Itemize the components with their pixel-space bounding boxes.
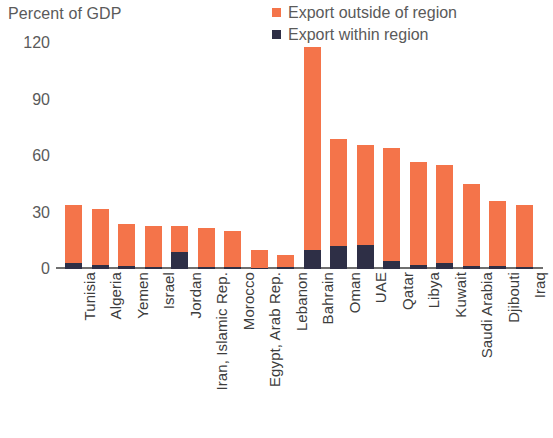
legend-swatch-icon-within	[272, 30, 281, 39]
bar-segment-export-within-region	[251, 268, 268, 270]
x-axis-tick-label: Iraq	[531, 272, 548, 438]
x-axis-tick-label: Lebanon	[293, 272, 310, 438]
x-axis-tick-label: UAE	[372, 272, 389, 438]
x-axis-tick-label: Algeria	[107, 272, 124, 438]
bar-oman[interactable]	[330, 139, 347, 269]
bar-segment-export-within-region	[489, 266, 506, 269]
y-axis-title: Percent of GDP	[8, 5, 121, 23]
x-axis-tick-label: Kuwait	[452, 272, 469, 438]
x-axis-tick-label: Egypt, Arab Rep.	[266, 272, 283, 438]
bar-bahrain[interactable]	[304, 47, 321, 269]
bar-segment-export-within-region	[65, 263, 82, 269]
legend-item-export-within-region[interactable]: Export within region	[272, 25, 457, 44]
bar-chart: Percent of GDP Export outside of region …	[0, 0, 553, 438]
bar-yemen[interactable]	[118, 224, 135, 269]
bar-egypt-arab-rep[interactable]	[251, 250, 268, 269]
y-axis-tick-label: 60	[4, 147, 50, 165]
bar-segment-export-within-region	[224, 267, 241, 269]
bar-segment-export-outside-of-region	[145, 226, 162, 267]
x-axis-tick-label: Saudi Arabia	[478, 272, 495, 438]
x-axis-tick-label: Oman	[346, 272, 363, 438]
bar-lebanon[interactable]	[277, 255, 294, 269]
bar-segment-export-within-region	[92, 265, 109, 269]
x-axis-tick-label: Djibouti	[505, 272, 522, 438]
bar-libya[interactable]	[410, 162, 427, 269]
bar-segment-export-within-region	[436, 263, 453, 269]
bar-tunisia[interactable]	[65, 205, 82, 269]
x-axis-tick-label: Israel	[160, 272, 177, 438]
legend-swatch-icon-outside	[272, 8, 281, 17]
bar-segment-export-outside-of-region	[198, 228, 215, 268]
bar-segment-export-within-region	[383, 261, 400, 269]
bar-segment-export-outside-of-region	[65, 205, 82, 263]
bar-segment-export-within-region	[330, 246, 347, 269]
y-axis-tick-label: 30	[4, 204, 50, 222]
legend-label-within: Export within region	[288, 26, 429, 44]
bar-segment-export-outside-of-region	[118, 224, 135, 266]
bar-segment-export-outside-of-region	[304, 47, 321, 250]
bar-iran-islamic-rep[interactable]	[198, 228, 215, 269]
bar-segment-export-within-region	[145, 267, 162, 269]
bar-segment-export-outside-of-region	[436, 165, 453, 263]
bar-algeria[interactable]	[92, 209, 109, 269]
legend-label-outside: Export outside of region	[288, 4, 457, 22]
legend-item-export-outside-of-region[interactable]: Export outside of region	[272, 3, 457, 22]
bar-segment-export-within-region	[516, 267, 533, 269]
bar-segment-export-outside-of-region	[383, 148, 400, 262]
y-axis-tick-label: 0	[4, 260, 50, 278]
bar-segment-export-within-region	[198, 267, 215, 269]
bar-segment-export-outside-of-region	[92, 209, 109, 266]
x-axis-tick-label: Yemen	[134, 272, 151, 438]
bar-israel[interactable]	[145, 226, 162, 269]
bar-segment-export-within-region	[410, 265, 427, 269]
x-axis-tick-label: Morocco	[240, 272, 257, 438]
bar-jordan[interactable]	[171, 226, 188, 269]
y-axis-tick-label: 90	[4, 91, 50, 109]
bar-morocco[interactable]	[224, 231, 241, 269]
bar-djibouti[interactable]	[489, 201, 506, 269]
x-axis-labels: TunisiaAlgeriaYemenIsraelJordanIran, Isl…	[56, 272, 543, 438]
x-axis-tick-label: Iran, Islamic Rep.	[213, 272, 230, 438]
bar-segment-export-within-region	[463, 266, 480, 269]
y-axis-tick-label: 120	[4, 34, 50, 52]
y-axis: 0306090120	[0, 43, 50, 269]
bar-segment-export-outside-of-region	[463, 184, 480, 266]
bar-segment-export-outside-of-region	[171, 226, 188, 252]
plot-area	[56, 43, 543, 269]
bar-segment-export-outside-of-region	[357, 145, 374, 245]
bar-segment-export-outside-of-region	[516, 205, 533, 267]
bar-kuwait[interactable]	[436, 165, 453, 269]
x-axis-tick-label: Qatar	[399, 272, 416, 438]
x-axis-tick-label: Jordan	[187, 272, 204, 438]
bar-segment-export-within-region	[118, 266, 135, 269]
bar-segment-export-outside-of-region	[277, 255, 294, 267]
bar-segment-export-outside-of-region	[330, 139, 347, 246]
bar-qatar[interactable]	[383, 148, 400, 269]
bar-segment-export-within-region	[171, 252, 188, 269]
x-axis-tick-label: Bahrain	[319, 272, 336, 438]
chart-legend: Export outside of region Export within r…	[272, 3, 457, 44]
bar-segment-export-outside-of-region	[251, 250, 268, 267]
bar-segment-export-outside-of-region	[410, 162, 427, 266]
bar-iraq[interactable]	[516, 205, 533, 269]
bar-segment-export-within-region	[277, 267, 294, 269]
bar-segment-export-within-region	[304, 250, 321, 269]
bar-segment-export-outside-of-region	[489, 201, 506, 266]
x-axis-tick-label: Libya	[425, 272, 442, 438]
bar-segment-export-within-region	[357, 245, 374, 269]
bar-segment-export-outside-of-region	[224, 231, 241, 267]
bar-saudi-arabia[interactable]	[463, 184, 480, 269]
x-axis-tick-label: Tunisia	[81, 272, 98, 438]
bar-uae[interactable]	[357, 145, 374, 269]
